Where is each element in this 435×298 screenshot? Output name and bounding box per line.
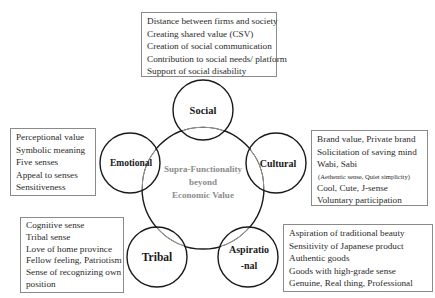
aspirational-item: Sensitivity of Japanese product: [289, 240, 427, 253]
cultural-item: Brand value, Private brand: [317, 133, 422, 146]
social-item: Contribution to social needs/ platform: [147, 53, 271, 66]
center-label-line2: beyond: [164, 176, 242, 189]
center-label: Supra-Functionality beyond Economic Valu…: [164, 163, 242, 202]
cultural-item-note: (Aethentic sense, Quiet simplicity): [317, 171, 422, 182]
emotional-item: Appeal to senses: [16, 169, 90, 182]
tribal-item: Love of home province: [26, 244, 118, 256]
cultural-item: Solicitation of saving mind: [317, 146, 422, 159]
social-box: Distance between firms and society Creat…: [141, 12, 277, 77]
tribal-label: Tribal: [142, 251, 172, 264]
tribal-item: position: [26, 279, 118, 291]
aspirational-item: Authentic goods: [289, 252, 427, 265]
cultural-item: Voluntary participation: [317, 194, 422, 207]
aspirational-item: Genuine, Real thing, Professional: [289, 277, 427, 290]
cultural-item: Wabi, Sabi: [317, 158, 422, 171]
tribal-item: Cognitive sense: [26, 220, 118, 232]
cultural-item: Cool, Cute, J-sense: [317, 182, 422, 195]
tribal-item: Sense of recognizing own: [26, 267, 118, 279]
aspirational-item: Aspiration of traditional beauty: [289, 227, 427, 240]
social-label: Social: [190, 104, 217, 117]
social-item: Creation of social communication: [147, 40, 271, 53]
aspirational-label-line1: Aspiratio: [229, 243, 269, 256]
center-label-line1: Supra-Functionality: [164, 163, 242, 176]
emotional-item: Five senses: [16, 156, 90, 169]
emotional-item: Symbolic meaning: [16, 144, 90, 157]
emotional-label: Emotional: [110, 157, 152, 170]
social-item: Distance between firms and society: [147, 15, 271, 28]
tribal-item: Tribal sense: [26, 232, 118, 244]
aspirational-label: Aspiratio -nal: [229, 243, 269, 272]
social-item: Support of social disability: [147, 65, 271, 78]
social-item: Creating shared value (CSV): [147, 28, 271, 41]
aspirational-label-line2: -nal: [229, 259, 269, 272]
cultural-box: Brand value, Private brand Solicitation …: [311, 130, 428, 206]
emotional-item: Perceptional value: [16, 131, 90, 144]
emotional-box: Perceptional value Symbolic meaning Five…: [10, 128, 96, 196]
tribal-item: Fellow feeling, Patriotism: [26, 255, 118, 267]
aspirational-item: Goods with high-grade sense: [289, 265, 427, 278]
center-label-line3: Economic Value: [164, 189, 242, 202]
cultural-label: Cultural: [260, 157, 297, 170]
aspirational-box: Aspiration of traditional beauty Sensiti…: [283, 224, 433, 292]
tribal-box: Cognitive sense Tribal sense Love of hom…: [20, 217, 124, 293]
emotional-item: Sensitiveness: [16, 181, 90, 194]
